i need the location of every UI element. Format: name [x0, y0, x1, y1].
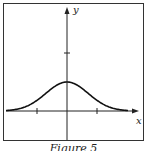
axes: [6, 7, 139, 140]
plot-frame: [4, 4, 144, 141]
x-axis-label: x: [136, 115, 142, 126]
y-axis-arrow-icon: [65, 7, 70, 14]
y-axis-label: y: [72, 4, 79, 15]
x-axis-arrow-icon: [132, 109, 139, 114]
figure-caption: Figure 5: [0, 143, 147, 151]
chart-plot: y x: [0, 0, 147, 151]
